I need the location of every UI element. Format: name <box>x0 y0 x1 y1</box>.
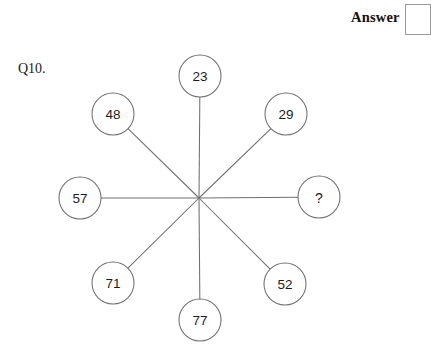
node-top-value: 23 <box>192 69 207 84</box>
spoke-line-top-right <box>199 129 271 198</box>
node-right[interactable]: ? <box>298 176 340 218</box>
spoke-line-right <box>199 197 298 198</box>
node-top-right-value: 29 <box>278 107 293 122</box>
node-right-value: ? <box>315 190 323 206</box>
spoke-line-bottom <box>199 198 200 299</box>
node-top-right: 29 <box>265 93 307 135</box>
node-bottom: 77 <box>179 299 221 341</box>
node-top-left-value: 48 <box>105 107 120 122</box>
spoke-line-top-left <box>128 129 199 198</box>
spoke-line-bottom-left <box>128 198 199 268</box>
node-bottom-left-value: 71 <box>105 276 120 291</box>
node-left-value: 57 <box>72 191 87 206</box>
node-bottom-right: 52 <box>264 263 306 305</box>
node-left: 57 <box>59 177 101 219</box>
node-bottom-value: 77 <box>192 313 207 328</box>
spoke-line-bottom-right <box>199 198 270 269</box>
node-bottom-left: 71 <box>92 262 134 304</box>
spokes-group <box>101 97 298 299</box>
node-top: 23 <box>179 55 221 97</box>
node-bottom-right-value: 52 <box>277 277 292 292</box>
node-top-left: 48 <box>92 93 134 135</box>
spoke-line-top <box>199 97 200 198</box>
